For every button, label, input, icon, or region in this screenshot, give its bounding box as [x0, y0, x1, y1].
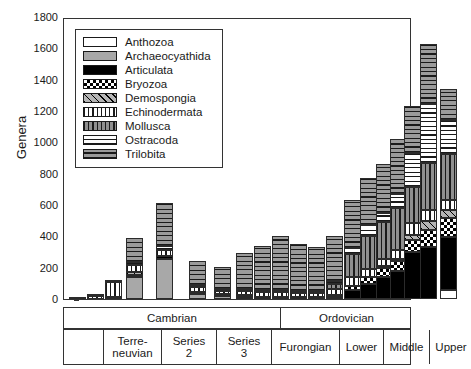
- legend-swatch-bryozoa: [83, 79, 117, 89]
- legend-item: Trilobita: [83, 147, 215, 161]
- series-label-line1: Middle: [390, 341, 424, 353]
- bar-segment-articulata: [420, 247, 437, 299]
- y-tick-mark: [74, 300, 79, 301]
- series-cell: Lower: [340, 330, 384, 364]
- bar-stack: [236, 253, 253, 299]
- bar-segment-mollusca: [440, 154, 457, 199]
- legend-swatch-demospongia: [83, 93, 117, 103]
- bar-segment-archaeocyathida: [105, 297, 122, 299]
- bar-segment-echinodermata: [69, 297, 86, 299]
- bar-segment-trilobita: [326, 236, 343, 281]
- bar-segment-articulata: [308, 297, 325, 299]
- legend-item: Archaeocyathida: [83, 49, 215, 63]
- y-tick-label: 1000: [18, 137, 58, 147]
- legend-label: Ostracoda: [125, 135, 178, 146]
- bar-segment-echinodermata: [87, 296, 104, 299]
- bar-segment-trilobita: [214, 267, 231, 288]
- bar-segment-trilobita: [156, 203, 173, 246]
- bar-stack: [214, 267, 231, 299]
- period-cell: Cambrian: [64, 308, 281, 328]
- bar-stack: [87, 294, 104, 299]
- bar-stack: [440, 89, 457, 299]
- bar-segment-trilobita: [440, 89, 457, 120]
- y-tick-label: 0: [18, 294, 58, 304]
- bar-stack: [290, 244, 307, 299]
- legend-swatch-anthozoa: [83, 37, 117, 47]
- series-label-line1: Series: [228, 335, 261, 347]
- series-label-line1: Series: [173, 335, 206, 347]
- bar-segment-trilobita: [420, 44, 437, 104]
- legend-label: Anthozoa: [125, 37, 174, 48]
- bar-segment-articulata: [290, 297, 307, 299]
- y-tick-label: 200: [18, 263, 58, 273]
- y-axis-ticks: 020040060080010001200140016001800: [16, 0, 58, 369]
- bar-segment-bryozoa: [420, 230, 437, 247]
- bar-segment-mollusca: [404, 187, 421, 223]
- legend-swatch-echinodermata: [83, 107, 117, 117]
- bar-segment-bryozoa: [440, 218, 457, 237]
- bar-segment-trilobita: [404, 106, 421, 153]
- legend-item: Anthozoa: [83, 35, 215, 49]
- bar-segment-trilobita: [308, 247, 325, 291]
- bar-segment-echinodermata: [360, 269, 377, 277]
- legend: AnthozoaArchaeocyathidaArticulataBryozoa…: [75, 29, 223, 168]
- bar-segment-archaeocyathida: [214, 296, 231, 299]
- series-cell: Furongian: [272, 330, 340, 364]
- legend-label: Trilobita: [125, 149, 165, 160]
- bar-segment-articulata: [326, 297, 343, 299]
- y-tick-label: 800: [18, 169, 58, 179]
- legend-item: Ostracoda: [83, 133, 215, 147]
- bar-segment-echinodermata: [156, 250, 173, 257]
- legend-swatch-archaeocyathida: [83, 51, 117, 61]
- bar-stack: [272, 236, 289, 299]
- bar-segment-archaeocyathida: [236, 297, 253, 299]
- bar-segment-ostracoda: [360, 225, 377, 236]
- legend-label: Archaeocyathida: [125, 51, 211, 62]
- bar-segment-articulata: [404, 252, 421, 299]
- legend-item: Bryozoa: [83, 77, 215, 91]
- series-label-line1: Upper: [435, 341, 466, 353]
- legend-label: Articulata: [125, 65, 173, 76]
- bar-segment-echinodermata: [440, 200, 457, 210]
- legend-swatch-ostracoda: [83, 135, 117, 145]
- series-cell: Series2: [162, 330, 217, 364]
- bar-stack: [156, 203, 173, 299]
- series-cell: Middle: [384, 330, 430, 364]
- bar-segment-demospongia: [420, 221, 437, 230]
- y-tick-label: 600: [18, 200, 58, 210]
- bar-segment-anthozoa: [440, 290, 457, 299]
- bar-segment-trilobita: [236, 253, 253, 289]
- bar-stack: [420, 44, 437, 299]
- series-label-line2: 3: [241, 347, 247, 359]
- bar-segment-articulata: [360, 284, 377, 299]
- bar-segment-mollusca: [344, 254, 361, 277]
- y-tick-label: 1400: [18, 75, 58, 85]
- series-cell: [64, 330, 104, 364]
- y-tick-label: 1200: [18, 106, 58, 116]
- bar-stack: [105, 280, 122, 299]
- legend-item: Mollusca: [83, 119, 215, 133]
- bar-segment-ostracoda: [404, 153, 421, 187]
- bar-segment-articulata: [344, 290, 361, 299]
- legend-item: Demospongia: [83, 91, 215, 105]
- bar-segment-mollusca: [360, 236, 377, 270]
- period-cell: Ordovician: [281, 308, 412, 328]
- legend-label: Mollusca: [125, 121, 170, 132]
- bar-segment-echinodermata: [105, 282, 122, 297]
- legend-swatch-articulata: [83, 65, 117, 75]
- y-tick-label: 400: [18, 231, 58, 241]
- bar-segment-echinodermata: [404, 223, 421, 235]
- series-cell: Series3: [217, 330, 272, 364]
- bar-segment-archaeocyathida: [189, 294, 206, 299]
- series-label-line2: 2: [186, 347, 192, 359]
- series-label-line1: Lower: [346, 341, 377, 353]
- bar-segment-mollusca: [420, 163, 437, 210]
- bar-segment-articulata: [440, 237, 457, 289]
- series-label-line1: Terre-: [117, 335, 147, 347]
- y-tick-label: 1600: [18, 43, 58, 53]
- y-tick-label: 1800: [18, 12, 58, 22]
- bar-stack: [360, 178, 377, 299]
- legend-label: Demospongia: [125, 93, 196, 104]
- bar-segment-echinodermata: [420, 210, 437, 221]
- bar-segment-trilobita: [360, 178, 377, 225]
